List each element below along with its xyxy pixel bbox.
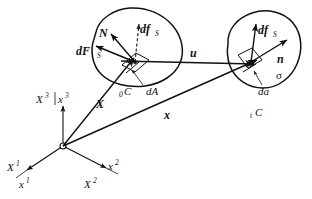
reference-configuration-outline xyxy=(92,8,182,87)
current-force-vector-dfS xyxy=(251,24,256,62)
label-position-vector-x: x xyxy=(163,108,170,122)
label-mapped-force-dfS-main: df xyxy=(140,22,151,36)
force-vector-dFS xyxy=(96,46,135,62)
diagram-canvas: N dF S df S 0 C dA X x u df S n xyxy=(0,0,312,199)
label-reference-config-C: C xyxy=(124,85,132,97)
axis-label-x1-sup: 1 xyxy=(26,176,30,185)
continuum-mechanics-figure: N dF S df S 0 C dA X x u df S n xyxy=(0,0,312,199)
label-displacement-vector-u: u xyxy=(190,46,197,60)
axis-label-x2: x 2 xyxy=(107,158,119,172)
axis-label-x3: x 3 xyxy=(57,91,69,105)
label-area-element-da: da xyxy=(258,85,270,97)
axis-label-X3: X 3 xyxy=(35,91,49,105)
label-position-vector-X: X xyxy=(95,97,105,111)
label-area-element-dA: dA xyxy=(146,85,159,97)
mapped-force-vector-dfS-dashed xyxy=(135,24,139,62)
label-current-force-dfS-main: df xyxy=(258,23,269,37)
axis-label-x1-main: x xyxy=(18,178,24,190)
axis-x2 xyxy=(63,146,106,168)
label-mapped-force-dfS: df S xyxy=(140,22,159,38)
axis-label-X2-main: X xyxy=(83,178,92,190)
axis-label-x1: x 1 xyxy=(18,176,30,190)
label-current-config-C: C xyxy=(255,106,263,118)
dA-leader-line xyxy=(132,70,143,85)
axis-label-X2: X 2 xyxy=(83,176,97,190)
label-current-normal-n: n xyxy=(277,52,284,66)
axis-label-x2-sup: 2 xyxy=(115,158,119,167)
axis-label-X3-main: X xyxy=(35,93,44,105)
axis-label-x3-sup: 3 xyxy=(64,91,69,100)
axis-label-X2-sup: 2 xyxy=(93,176,97,185)
label-current-force-dfS: df S xyxy=(258,23,277,39)
label-force-dFS-sub: S xyxy=(97,51,101,60)
displacement-vector-u xyxy=(121,61,254,64)
label-stress-sigma: σ xyxy=(276,69,282,81)
label-current-force-dfS-sub: S xyxy=(273,30,277,39)
label-normal-N: N xyxy=(98,26,109,40)
da-leader-line xyxy=(254,71,262,85)
label-current-config-prefix: t xyxy=(250,111,253,120)
label-reference-configuration-C: 0 C xyxy=(119,85,132,99)
axis-label-x2-main: x xyxy=(107,160,113,172)
position-vector-x xyxy=(63,60,257,146)
label-mapped-force-dfS-sub: S xyxy=(155,29,159,38)
label-force-dFS-main: dF xyxy=(76,44,90,58)
axis-x1 xyxy=(27,146,63,170)
label-current-configuration-C: t C xyxy=(250,106,263,120)
axis-label-X3-sup: 3 xyxy=(44,91,49,100)
axis-label-X1-main: X xyxy=(6,161,15,173)
axis-label-X1: X 1 xyxy=(6,159,20,173)
axis-label-X1-sup: 1 xyxy=(16,159,20,168)
label-reference-config-prefix: 0 xyxy=(119,90,123,99)
axis-label-x3-main: x xyxy=(57,93,63,105)
